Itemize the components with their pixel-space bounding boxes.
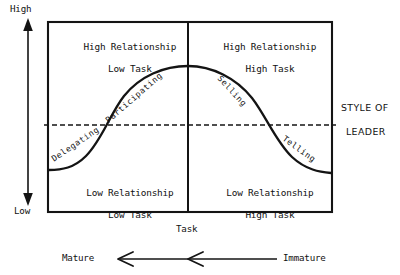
maturity-label-mature: Mature: [62, 253, 94, 264]
axis-label-low: Low: [14, 206, 30, 217]
quadrant-bottom-right-line2: High Task: [245, 209, 294, 220]
axis-label-high: High: [10, 4, 31, 15]
quadrant-top-right-line2: High Task: [245, 63, 294, 74]
maturity-axis-arrow: [118, 252, 277, 266]
quadrant-top-right: High Relationship High Task: [198, 30, 320, 85]
maturity-label-immature: Immature: [283, 253, 326, 264]
quadrant-bottom-left-line1: Low Relationship: [86, 187, 173, 198]
quadrant-bottom-left: Low Relationship Low Task: [60, 176, 178, 231]
quadrant-bottom-right-line1: Low Relationship: [226, 187, 313, 198]
quadrant-top-right-line1: High Relationship: [224, 41, 317, 52]
diagram-canvas: High Low High Relationship Low Task High…: [0, 0, 400, 275]
style-of-leader-line2: LEADER: [346, 126, 386, 137]
quadrant-top-left-line2: Low Task: [108, 63, 152, 74]
quadrant-bottom-left-line2: Low Task: [108, 209, 152, 220]
quadrant-bottom-right: Low Relationship High Task: [198, 176, 320, 231]
quadrant-top-left-line1: High Relationship: [84, 41, 177, 52]
relationship-axis-arrow: [23, 18, 33, 206]
axis-label-task: Task: [176, 224, 197, 235]
style-of-leader-line1: STYLE OF: [341, 102, 389, 113]
